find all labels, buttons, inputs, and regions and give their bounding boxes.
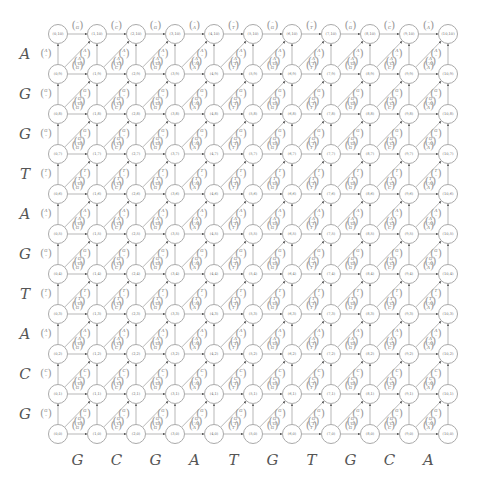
- graph-node: (8,1): [360, 384, 380, 404]
- diagonal-edge-label: (AA): [425, 57, 437, 67]
- diagonal-edge-label: (AC): [386, 337, 398, 347]
- graph-node: (0,7): [48, 144, 68, 164]
- graph-node: (8,5): [360, 224, 380, 244]
- diagonal-edge-label: (GC): [386, 137, 398, 147]
- diagonal-edge-label: (GG): [269, 97, 281, 107]
- graph-node: (7,5): [321, 224, 341, 244]
- graph-node: (3,0): [165, 424, 185, 444]
- diagonal-edge-label: (CA): [425, 377, 437, 387]
- graph-node: (2,1): [126, 384, 146, 404]
- graph-node: (4,0): [204, 424, 224, 444]
- horizontal-edge-label: (–A): [423, 21, 435, 31]
- diagonal-edge-label: (AA): [191, 57, 203, 67]
- graph-node: (10,3): [438, 304, 458, 324]
- graph-node: (0,2): [48, 344, 68, 364]
- horizontal-edge-label: (–G): [150, 21, 162, 31]
- graph-node: (3,10): [165, 24, 185, 44]
- graph-node: (10,2): [438, 344, 458, 364]
- graph-node: (3,2): [165, 344, 185, 364]
- diagonal-edge-label: (TG): [152, 177, 164, 187]
- diagonal-edge-label: (AT): [230, 217, 242, 227]
- graph-node: (3,8): [165, 104, 185, 124]
- sequence-x-letter: A: [423, 451, 434, 469]
- graph-node: (3,7): [165, 144, 185, 164]
- diagonal-edge-label: (GC): [113, 257, 125, 267]
- graph-node: (6,0): [282, 424, 302, 444]
- diagonal-edge-label: (AC): [386, 57, 398, 67]
- sequence-x-letter: C: [384, 451, 395, 469]
- diagonal-edge-label: (GT): [230, 137, 242, 147]
- diagonal-edge-label: (TC): [386, 177, 398, 187]
- diagonal-edge-label: (TG): [269, 177, 281, 187]
- sequence-x-letter: G: [267, 451, 279, 469]
- graph-node: (0,6): [48, 184, 68, 204]
- graph-node: (1,1): [87, 384, 107, 404]
- graph-node: (8,10): [360, 24, 380, 44]
- diagonal-edge-label: (AG): [347, 337, 359, 347]
- diagonal-edge-label: (GG): [74, 97, 86, 107]
- graph-node: (4,8): [204, 104, 224, 124]
- graph-node: (2,7): [126, 144, 146, 164]
- diagonal-edge-label: (GC): [386, 97, 398, 107]
- diagonal-edge-label: (TA): [425, 177, 437, 187]
- diagonal-edge-label: (AT): [230, 57, 242, 67]
- diagonal-edge-label: (AG): [74, 337, 86, 347]
- diagonal-edge-label: (AT): [308, 217, 320, 227]
- graph-node: (10,9): [438, 64, 458, 84]
- graph-node: (6,5): [282, 224, 302, 244]
- diagonal-edge-label: (GT): [308, 417, 320, 427]
- diagonal-edge-label: (GT): [308, 137, 320, 147]
- diagonal-edge-label: (GT): [230, 257, 242, 267]
- graph-node: (5,10): [243, 24, 263, 44]
- diagonal-edge-label: (CT): [308, 377, 320, 387]
- graph-node: (4,2): [204, 344, 224, 364]
- graph-node: (7,2): [321, 344, 341, 364]
- diagonal-edge-label: (TT): [230, 297, 241, 307]
- horizontal-edge-label: (–A): [189, 21, 201, 31]
- graph-node: (10,1): [438, 384, 458, 404]
- graph-node: (1,5): [87, 224, 107, 244]
- vertical-edge-label: (C–): [40, 369, 52, 379]
- graph-node: (2,5): [126, 224, 146, 244]
- diagonal-edge-label: (AC): [113, 217, 125, 227]
- diagonal-edge-label: (GC): [386, 417, 398, 427]
- graph-node: (10,10): [438, 24, 458, 44]
- graph-node: (4,7): [204, 144, 224, 164]
- diagonal-edge-label: (GG): [152, 97, 164, 107]
- graph-node: (1,9): [87, 64, 107, 84]
- graph-node: (1,4): [87, 264, 107, 284]
- diagonal-edge-label: (GG): [152, 417, 164, 427]
- graph-node: (6,10): [282, 24, 302, 44]
- diagonal-edge-label: (AC): [386, 217, 398, 227]
- diagonal-edge-label: (TT): [308, 297, 319, 307]
- graph-node: (4,4): [204, 264, 224, 284]
- graph-node: (7,4): [321, 264, 341, 284]
- graph-node: (9,6): [399, 184, 419, 204]
- diagonal-edge-label: (GT): [308, 257, 320, 267]
- graph-node: (7,9): [321, 64, 341, 84]
- graph-node: (8,3): [360, 304, 380, 324]
- diagonal-edge-label: (AG): [74, 217, 86, 227]
- graph-node: (0,5): [48, 224, 68, 244]
- graph-node: (9,4): [399, 264, 419, 284]
- graph-node: (5,1): [243, 384, 263, 404]
- diagonal-edge-label: (AG): [74, 57, 86, 67]
- graph-node: (7,6): [321, 184, 341, 204]
- graph-node: (6,3): [282, 304, 302, 324]
- sequence-y-letter: C: [19, 365, 30, 383]
- graph-node: (1,10): [87, 24, 107, 44]
- graph-node: (8,7): [360, 144, 380, 164]
- graph-node: (10,6): [438, 184, 458, 204]
- graph-node: (6,9): [282, 64, 302, 84]
- graph-node: (7,10): [321, 24, 341, 44]
- diagonal-edge-label: (AG): [347, 217, 359, 227]
- diagonal-edge-label: (GA): [425, 137, 437, 147]
- graph-node: (3,6): [165, 184, 185, 204]
- graph-node: (10,8): [438, 104, 458, 124]
- sequence-x-letter: T: [228, 451, 238, 469]
- diagonal-edge-label: (AG): [152, 337, 164, 347]
- sequence-x-letter: C: [111, 451, 122, 469]
- graph-node: (8,0): [360, 424, 380, 444]
- vertical-edge-label: (A–): [40, 329, 52, 339]
- graph-node: (10,0): [438, 424, 458, 444]
